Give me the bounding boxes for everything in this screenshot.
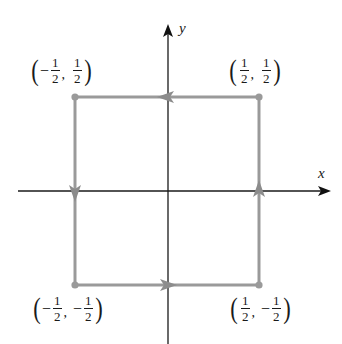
comma: , — [64, 306, 68, 320]
vertex-top-left — [71, 93, 78, 100]
x-numerator: 1 — [241, 294, 250, 309]
x-sign: − — [42, 301, 51, 317]
y-fraction: 1 2 — [262, 56, 271, 85]
x-fraction: 1 2 — [241, 294, 250, 323]
x-denominator: 2 — [54, 309, 61, 323]
x-axis-label: x — [318, 165, 325, 182]
x-denominator: 2 — [241, 71, 248, 85]
y-numerator: 1 — [84, 294, 93, 309]
point-label-top-right: ( 1 2 , 1 2 ) — [228, 56, 282, 85]
close-paren: ) — [84, 55, 92, 85]
point-label-bottom-left: ( − 1 2 , − 1 2 ) — [32, 294, 104, 323]
x-axis — [18, 186, 331, 196]
x-denominator: 2 — [242, 309, 249, 323]
x-fraction: 1 2 — [51, 56, 60, 85]
point-label-bottom-right: ( 1 2 , − 1 2 ) — [229, 294, 292, 323]
y-fraction: 1 2 — [73, 56, 82, 85]
x-numerator: 1 — [51, 56, 60, 71]
y-fraction: 1 2 — [272, 294, 281, 323]
y-numerator: 1 — [272, 294, 281, 309]
x-numerator: 1 — [240, 56, 249, 71]
y-sign: − — [261, 301, 270, 317]
vertex-top-right — [255, 93, 262, 100]
open-paren: ( — [230, 293, 238, 323]
comma: , — [252, 306, 256, 320]
x-fraction: 1 2 — [53, 294, 62, 323]
open-paren: ( — [31, 55, 39, 85]
x-denominator: 2 — [52, 71, 59, 85]
y-axis-label: y — [179, 20, 186, 37]
y-fraction: 1 2 — [84, 294, 93, 323]
close-paren: ) — [283, 293, 291, 323]
vertex-bottom-left — [71, 281, 78, 288]
comma: , — [251, 68, 255, 82]
open-paren: ( — [33, 293, 41, 323]
y-numerator: 1 — [262, 56, 271, 71]
close-paren: ) — [273, 55, 281, 85]
x-fraction: 1 2 — [240, 56, 249, 85]
vertex-bottom-right — [255, 281, 262, 288]
y-denominator: 2 — [273, 309, 280, 323]
x-sign: − — [40, 63, 49, 79]
y-axis — [163, 24, 173, 344]
y-denominator: 2 — [74, 71, 81, 85]
y-sign: − — [73, 301, 82, 317]
point-label-top-left: ( − 1 2 , 1 2 ) — [30, 56, 93, 85]
y-denominator: 2 — [85, 309, 92, 323]
y-denominator: 2 — [263, 71, 270, 85]
x-numerator: 1 — [53, 294, 62, 309]
y-numerator: 1 — [73, 56, 82, 71]
open-paren: ( — [229, 55, 237, 85]
comma: , — [62, 68, 66, 82]
close-paren: ) — [95, 293, 103, 323]
